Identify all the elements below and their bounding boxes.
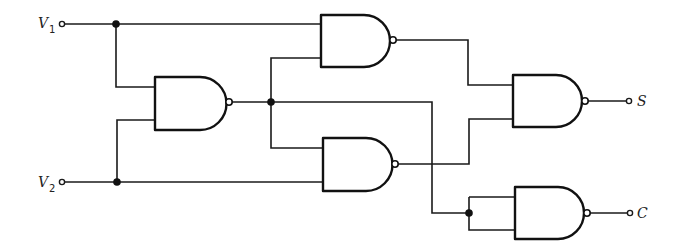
nand-gate-g1 <box>155 77 232 130</box>
output-label-s: S <box>637 93 647 109</box>
wire-v2-to-g1 <box>117 120 155 182</box>
inverter-bubble-icon <box>390 37 396 43</box>
input-subscript-v1: 1 <box>49 24 55 35</box>
terminal-c-icon <box>627 210 632 215</box>
terminal-v1-icon <box>59 21 64 26</box>
wire-g1-to-g3 <box>271 102 323 148</box>
junction-dot-icon <box>112 20 120 28</box>
inverter-bubble-icon <box>584 210 590 216</box>
terminal-s-icon <box>626 98 631 103</box>
junction-dot-icon <box>267 98 275 106</box>
nand-gate-g5 <box>515 187 590 239</box>
input-subscript-v2: 2 <box>49 183 55 194</box>
wire-g5-inputs <box>469 197 515 230</box>
inverter-bubble-icon <box>226 99 232 105</box>
junction-dot-icon <box>465 209 473 217</box>
wire-g2-to-g4 <box>395 40 513 85</box>
nand-gate-g4 <box>513 75 588 127</box>
half-adder-circuit-diagram: V 1 V 2 S C <box>0 0 679 250</box>
inverter-bubble-icon <box>392 161 398 167</box>
junction-dot-icon <box>113 178 121 186</box>
nand-gate-g3 <box>323 138 398 191</box>
wire-v1-to-g1 <box>116 24 155 87</box>
wire-g3-to-g4 <box>397 119 513 164</box>
nand-gate-g2 <box>321 15 396 67</box>
output-label-c: C <box>637 205 648 221</box>
inverter-bubble-icon <box>582 98 588 104</box>
wire-g1-to-g2 <box>271 58 321 102</box>
terminal-v2-icon <box>59 179 64 184</box>
